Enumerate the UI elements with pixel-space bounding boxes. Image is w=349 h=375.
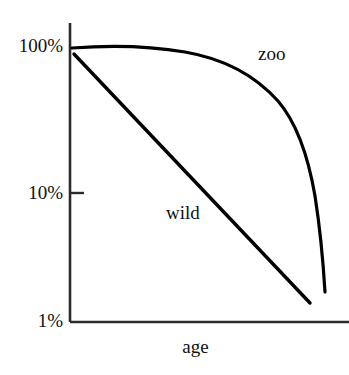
- y-axis-tick-label-100-percent: 100%: [19, 36, 63, 55]
- series-line-zoo: [72, 46, 325, 292]
- series-annotation-zoo: zoo: [258, 44, 285, 63]
- y-axis-tick-label-1-percent: 1%: [38, 311, 63, 330]
- series-annotation-wild: wild: [166, 203, 200, 222]
- series-line-wild: [74, 54, 310, 303]
- x-axis-label: age: [0, 336, 349, 358]
- survivorship-chart-figure: 100% 10% 1% zoo wild age: [0, 0, 349, 375]
- y-axis-tick-label-10-percent: 10%: [28, 183, 63, 202]
